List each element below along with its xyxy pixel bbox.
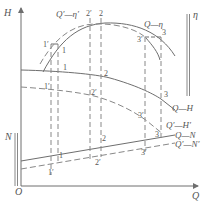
point-2-eta: 2	[99, 9, 103, 18]
pump-characteristic-diagram: H Q O η N Q′—η′ Q—η Q—H Q′—H′ Q—N Q′—N′ …	[0, 0, 202, 208]
q-eta-label: Q—η	[144, 19, 164, 29]
point-3p-eta: 3′	[137, 35, 143, 44]
n-axis-label: N	[4, 131, 13, 142]
point-2p-n: 2′	[95, 158, 101, 167]
eta-axis-label: η	[193, 9, 198, 20]
point-2-n: 2	[102, 134, 106, 143]
point-2p-h: 2′	[91, 88, 97, 97]
q-h-label: Q—H	[172, 103, 194, 113]
point-2-h: 2	[104, 69, 108, 78]
point-3-h: 3	[164, 90, 168, 99]
point-1-eta: 1	[62, 46, 66, 55]
origin-label: O	[15, 186, 22, 197]
point-3-eta: 3	[162, 28, 166, 37]
point-3p-h: 3′	[138, 111, 144, 120]
point-2p-eta: 2′	[86, 9, 92, 18]
q-n-prime-label: Q′—N′	[175, 139, 200, 149]
point-3p-n: 3′	[141, 148, 147, 157]
n-axis	[15, 133, 18, 186]
q-h-prime-label: Q′—H′	[166, 120, 192, 130]
q-eta-prime-tail	[146, 38, 160, 60]
q-eta-prime-label: Q′—η′	[56, 9, 80, 19]
x-axis-label: Q	[192, 190, 200, 201]
y-axis-label: H	[3, 7, 12, 18]
point-1-n: 1	[59, 151, 63, 160]
point-3-n: 3	[155, 130, 159, 139]
point-1p-h: 1′	[44, 82, 50, 91]
point-1p-n: 1′	[48, 168, 54, 177]
eta-axis	[187, 14, 190, 96]
point-1p-eta: 1′	[43, 40, 49, 49]
point-1-h: 1	[63, 63, 67, 72]
